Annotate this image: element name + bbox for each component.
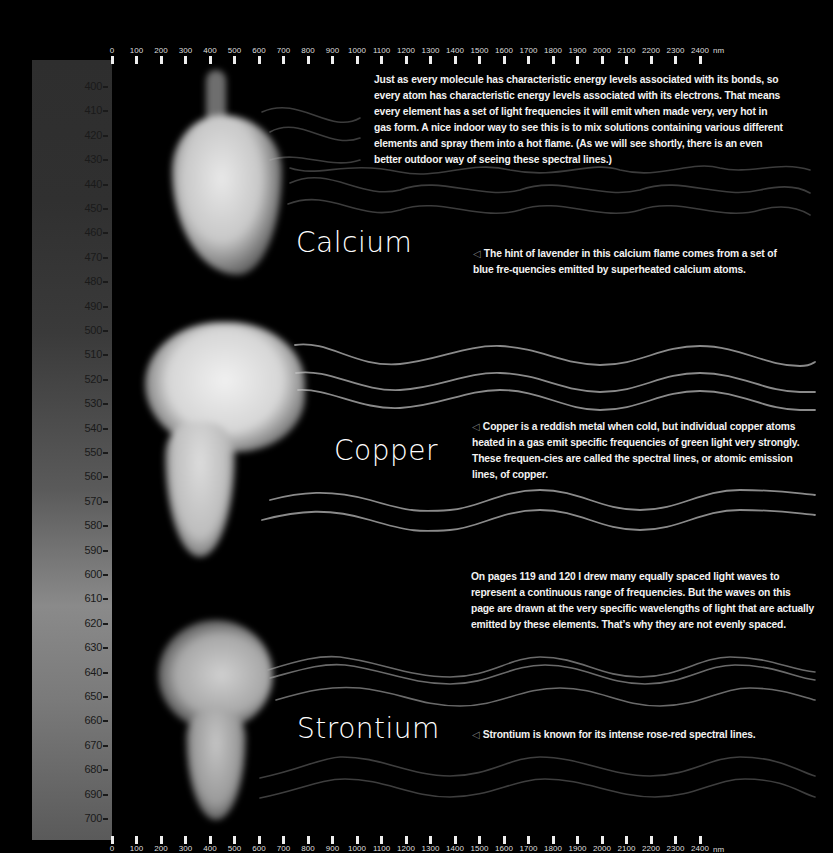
spectrum-wavelength-label: 680 [0,763,108,775]
ruler-tick-mark [184,836,187,844]
ruler-tick-mark [307,836,310,844]
ruler-tick-mark [209,56,212,64]
ruler-tick-mark [601,56,604,64]
element-title-calcium: Calcium [296,226,412,259]
ruler-tick-label: 500 [228,46,241,55]
ruler-tick-label: 2200 [642,46,660,55]
spectrum-wavelength-label: 500 [0,324,108,336]
ruler-tick-mark [429,56,432,64]
strontium-wave-lines-lower [260,757,815,798]
ruler-tick-label: 100 [130,844,143,853]
ruler-tick-mark [650,836,653,844]
ruler-tick-label: 1600 [495,46,513,55]
ruler-tick-mark [552,56,555,64]
spectrum-wavelength-label: 550 [0,446,108,458]
ruler-tick-mark [160,56,163,64]
ruler-tick-label: 1800 [544,844,562,853]
spectrum-wavelength-label: 640 [0,666,108,678]
spectrum-wavelength-label: 490 [0,300,108,312]
spectrum-wavelength-label: 480 [0,275,108,287]
ruler-tick-label: 700 [277,46,290,55]
caption-pointer-icon: ◁ [473,248,481,259]
spectrum-wavelength-label: 510 [0,348,108,360]
ruler-tick-label: 1700 [520,844,538,853]
ruler-tick-mark [111,56,114,64]
ruler-tick-label: 300 [179,46,192,55]
ruler-tick-mark [454,56,457,64]
ruler-tick-label: 1400 [446,46,464,55]
ruler-tick-mark [503,836,506,844]
calcium-caption-text: The hint of lavender in this calcium fla… [473,248,777,275]
ruler-tick-mark [405,836,408,844]
ruler-tick-mark [307,56,310,64]
spectrum-wavelength-label: 630 [0,641,108,653]
ruler-tick-mark [478,836,481,844]
ruler-tick-mark [331,56,334,64]
ruler-tick-mark [650,56,653,64]
spectrum-wavelength-label: 650 [0,690,108,702]
ruler-tick-label: 2100 [618,844,636,853]
spectrum-wavelength-label: 440 [0,178,108,190]
spectrum-wavelength-label: 420 [0,129,108,141]
ruler-tick-mark [454,836,457,844]
ruler-tick-mark [576,836,579,844]
ruler-tick-mark [258,836,261,844]
strontium-caption: ◁Strontium is known for its intense rose… [472,727,812,743]
copper-flame-image [135,322,310,562]
ruler-tick-label: 1000 [348,844,366,853]
ruler-tick-mark [258,56,261,64]
ruler-tick-label: 2300 [667,844,685,853]
spectrum-wavelength-label: 560 [0,470,108,482]
ruler-tick-mark [699,56,702,64]
ruler-tick-label: 1200 [397,46,415,55]
ruler-tick-label: 500 [228,844,241,853]
ruler-tick-mark [625,836,628,844]
spectrum-wavelength-label: 600 [0,568,108,580]
wave-spacing-note: On pages 119 and 120 I drew many equally… [471,569,816,633]
ruler-tick-mark [503,56,506,64]
ruler-tick-label: 0 [110,844,114,853]
spectrum-wavelength-label: 540 [0,422,108,434]
spectrum-wavelength-label: 610 [0,592,108,604]
spectrum-wavelength-label: 430 [0,153,108,165]
ruler-tick-mark [356,836,359,844]
ruler-tick-label: 700 [277,844,290,853]
spectrum-wavelength-label: 690 [0,788,108,800]
ruler-tick-label: 400 [203,844,216,853]
spectrum-wavelength-label: 470 [0,251,108,263]
ruler-unit-label: nm [713,845,724,853]
ruler-tick-mark [405,56,408,64]
ruler-tick-label: 2000 [593,844,611,853]
ruler-tick-mark [282,56,285,64]
ruler-tick-label: 1400 [446,844,464,853]
spectrum-wavelength-label: 580 [0,519,108,531]
ruler-tick-label: 1600 [495,844,513,853]
ruler-tick-label: 2100 [618,46,636,55]
ruler-tick-mark [699,836,702,844]
ruler-tick-mark [625,56,628,64]
spectrum-wavelength-label: 620 [0,617,108,629]
ruler-tick-label: 900 [326,844,339,853]
ruler-tick-label: 1800 [544,46,562,55]
ruler-tick-label: 1900 [569,46,587,55]
caption-pointer-icon: ◁ [472,421,480,432]
ruler-tick-label: 1500 [471,46,489,55]
ruler-tick-mark [233,56,236,64]
ruler-tick-mark [160,836,163,844]
ruler-tick-mark [209,836,212,844]
spectrum-wavelength-label: 450 [0,202,108,214]
ruler-tick: 2400 [685,836,715,853]
ruler-tick-label: 1700 [520,46,538,55]
ruler-unit-label: nm [713,46,724,55]
ruler-tick-mark [135,836,138,844]
ruler-tick-label: 800 [301,46,314,55]
spectrum-wavelength-label: 400 [0,80,108,92]
calcium-caption: ◁The hint of lavender in this calcium fl… [473,246,791,278]
ruler-tick-mark [429,836,432,844]
ruler-tick-label: 100 [130,46,143,55]
ruler-tick-mark [282,836,285,844]
calcium-flame-image [172,70,282,280]
ruler-tick-label: 200 [154,46,167,55]
ruler-tick-label: 2400 [691,844,709,853]
element-title-copper: Copper [334,434,438,467]
